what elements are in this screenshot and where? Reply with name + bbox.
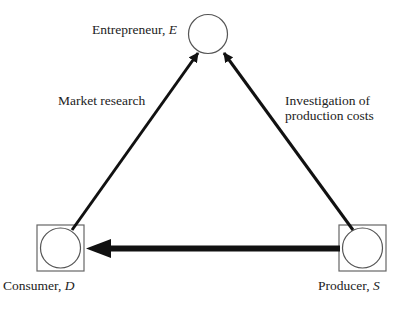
entrepreneur-node bbox=[189, 15, 228, 54]
entrepreneur-label: Entrepreneur, E bbox=[92, 22, 177, 38]
consumer-label: Consumer, D bbox=[3, 278, 74, 294]
market-research-label: Market research bbox=[58, 93, 145, 109]
edge-production-costs-arrow bbox=[224, 53, 353, 230]
diagram-canvas bbox=[0, 0, 410, 313]
producer-label: Producer, S bbox=[318, 278, 380, 294]
edge-producer-to-consumer-arrow bbox=[86, 239, 340, 258]
consumer-node bbox=[37, 225, 84, 271]
investigation-label: Investigation of production costs bbox=[285, 93, 374, 123]
producer-node bbox=[339, 225, 386, 271]
edge-market-research-arrow bbox=[72, 53, 198, 230]
